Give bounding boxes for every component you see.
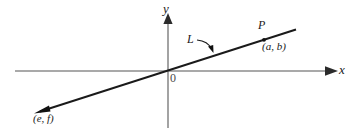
- x-axis-label: x: [339, 63, 345, 76]
- x-axis-arrowhead-icon: [325, 66, 338, 76]
- origin-label: 0: [170, 72, 176, 84]
- line-l-label: L: [187, 33, 194, 45]
- line-l-pointer-arrowhead-icon: [208, 45, 214, 53]
- point-p-coordinates-label: (a, b): [262, 41, 286, 52]
- endpoint-coordinates-label: (e, f): [33, 113, 54, 124]
- point-p-label: P: [258, 19, 265, 31]
- y-axis-label: y: [163, 2, 169, 15]
- coordinate-plane-figure: y x 0 L P (a, b) (e, f): [0, 0, 354, 135]
